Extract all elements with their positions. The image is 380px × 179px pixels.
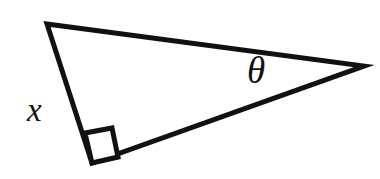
triangle-figure-canvas: x θ <box>0 0 380 179</box>
angle-label-theta: θ <box>247 52 265 89</box>
right-angle-square-icon <box>85 128 118 163</box>
side-length-label-x: x <box>27 94 42 127</box>
triangle-diagram-svg <box>0 0 380 179</box>
